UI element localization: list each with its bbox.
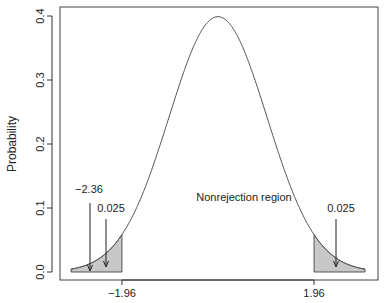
annotation-test-statistic: −2.36: [75, 183, 103, 195]
y-tick-label: 0.0: [34, 264, 46, 279]
x-tick-label: 1.96: [303, 287, 324, 299]
right-rejection-region: [314, 235, 365, 272]
y-tick-label: 0.2: [34, 136, 46, 151]
annotation-left-area: 0.025: [97, 202, 125, 214]
y-axis-label: Probability: [5, 116, 19, 172]
annotation-right-area: 0.025: [327, 202, 355, 214]
plot-frame: [60, 7, 378, 280]
annotation-nonrejection-region: Nonrejection region: [196, 191, 291, 203]
normal-distribution-chart: 0.00.10.20.30.4 −1.961.96 Probability −2…: [0, 0, 385, 303]
left-rejection-region: [71, 235, 122, 272]
x-tick-label: −1.96: [108, 287, 136, 299]
x-axis: −1.961.96: [108, 280, 325, 299]
y-tick-label: 0.3: [34, 72, 46, 87]
density-curve: [71, 17, 365, 269]
y-axis: 0.00.10.20.30.4: [34, 8, 52, 279]
y-tick-label: 0.4: [34, 8, 46, 23]
y-tick-label: 0.1: [34, 200, 46, 215]
